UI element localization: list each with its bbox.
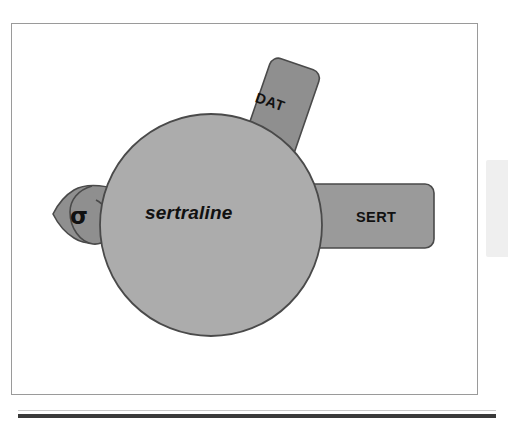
bottom-rule-hairline [18, 410, 496, 411]
sert-label: SERT [356, 209, 396, 225]
bottom-rule [18, 414, 496, 418]
right-panel-edge [486, 160, 508, 257]
sigma-receptor-label: σ [70, 205, 88, 228]
sertraline-label: sertraline [145, 202, 233, 224]
